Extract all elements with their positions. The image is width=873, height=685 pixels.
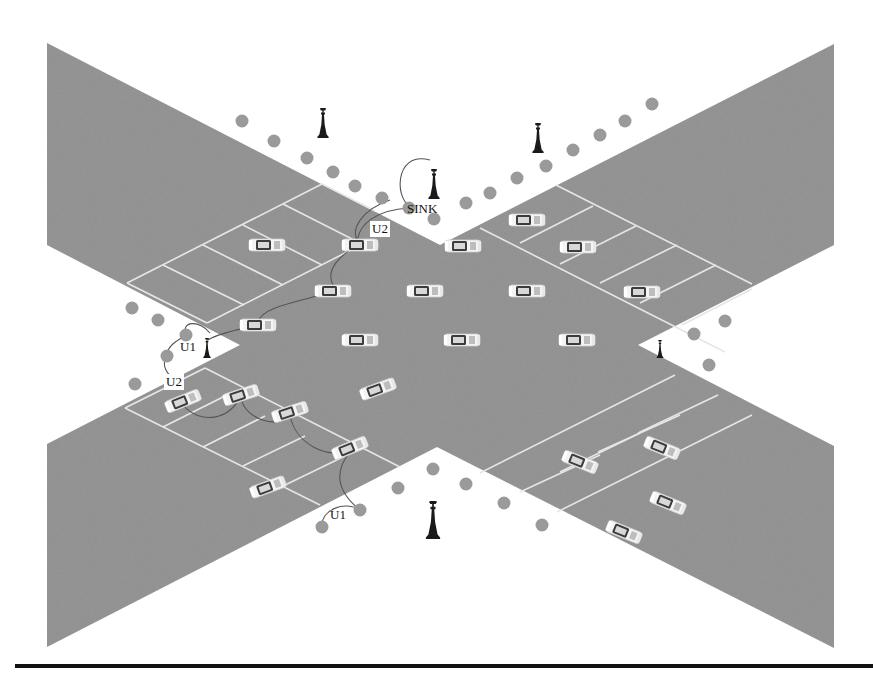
sensor-node-icon — [427, 463, 440, 476]
sensor-node-icon — [392, 482, 405, 495]
car-icon — [240, 319, 276, 331]
sensor-node-icon — [129, 378, 142, 391]
sensor-node-icon — [484, 187, 497, 200]
sensor-node-icon — [316, 521, 329, 534]
sensor-node-icon — [268, 135, 281, 148]
sensor-node-icon — [327, 166, 340, 179]
sensor-node-icon — [703, 359, 716, 372]
svg-text:U1: U1 — [180, 339, 196, 354]
car-icon — [509, 214, 545, 226]
sensor-node-icon — [236, 115, 249, 128]
parking-intersection-diagram: SINKU2U1U2U1 — [0, 0, 873, 685]
car-icon — [444, 334, 480, 346]
u1-label-left: U1 — [180, 339, 196, 354]
sensor-node-icon — [460, 478, 473, 491]
car-icon — [342, 239, 378, 251]
sensor-node-icon — [536, 519, 549, 532]
tower-left-icon — [203, 338, 210, 358]
intersection-road — [47, 43, 834, 648]
car-icon — [559, 334, 595, 346]
u2-label-left: U2 — [164, 374, 184, 390]
svg-text:U2: U2 — [166, 374, 182, 389]
sensor-node-icon — [152, 314, 165, 327]
sensor-node-icon — [688, 328, 701, 341]
car-icon — [445, 240, 481, 252]
sensor-node-icon — [540, 160, 553, 173]
sensor-node-icon — [719, 315, 732, 328]
car-icon — [560, 241, 596, 253]
link-arc — [400, 159, 430, 207]
tower-sink-icon — [428, 169, 439, 199]
svg-text:U1: U1 — [330, 507, 346, 522]
car-icon — [407, 285, 443, 297]
sensor-node-icon — [567, 144, 580, 157]
sensor-node-icon — [619, 115, 632, 128]
u2-label-top: U2 — [370, 221, 390, 237]
car-icon — [249, 239, 285, 251]
sensor-node-icon — [460, 197, 473, 210]
road-layer — [47, 43, 834, 648]
car-icon — [342, 334, 378, 346]
tower-top-right-icon — [532, 123, 543, 153]
car-icon — [624, 286, 660, 298]
svg-text:SINK: SINK — [407, 201, 438, 216]
car-icon — [509, 285, 545, 297]
sensor-node-icon — [161, 350, 174, 363]
car-icon — [315, 285, 351, 297]
sensor-node-icon — [498, 497, 511, 510]
sink-label: SINK — [407, 201, 438, 216]
sensor-node-icon — [126, 302, 139, 315]
u1-label-bottom: U1 — [330, 507, 346, 522]
sensor-node-icon — [594, 129, 607, 142]
tower-bottom-icon — [426, 501, 440, 539]
sensor-node-icon — [376, 192, 389, 205]
sensor-node-icon — [511, 172, 524, 185]
tower-top-left-icon — [317, 108, 328, 138]
sensor-node-icon — [349, 180, 362, 193]
sensor-node-icon — [646, 98, 659, 111]
svg-text:U2: U2 — [372, 221, 388, 236]
sensor-node-icon — [301, 152, 314, 165]
sensor-node-icon — [354, 504, 367, 517]
